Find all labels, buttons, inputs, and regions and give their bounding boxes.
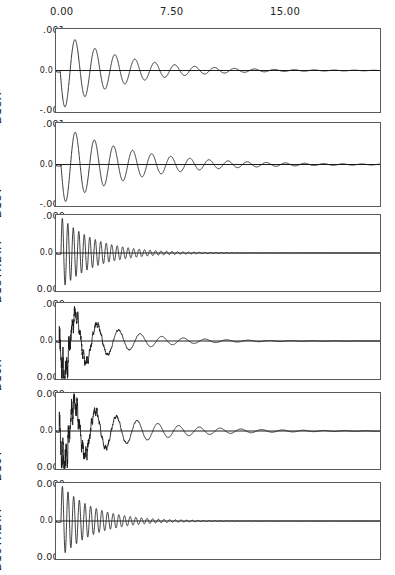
waveform-plot [56,215,380,291]
y-tick-label-mid: 0.0 [31,426,53,435]
subplot-panel: 0.000 0.0 0.000 D10THETA [0,482,395,560]
subplot-panel: .001 0.0 -.001 D18X [0,28,395,113]
plot-frame [55,214,381,292]
waveform-plot [56,123,380,206]
y-axis-title: D10Y [0,467,4,481]
y-tick-label-mid: 0.0 [31,160,53,169]
x-tick-label: 7.50 [160,6,183,17]
y-tick-label-mid: 0.0 [31,248,53,257]
y-tick-label-mid: 0.0 [31,66,53,75]
signal-trace [56,40,380,107]
figure-canvas: 0.00 7.50 15.00 .001 0.0 -.001 D18X .001… [0,0,395,575]
subplot-panel: .000 0.0 0.000 D10X [0,302,395,380]
x-tick-label: 15.00 [270,6,300,17]
plot-frame [55,392,381,470]
y-axis-title: D10X [0,377,4,391]
y-axis-title: D18THETA [0,289,4,303]
signal-trace [56,132,380,201]
plot-frame [55,302,381,380]
plot-frame [55,482,381,560]
subplot-panel: 0.000 0.0 0.000 D10Y [0,392,395,470]
subplot-panel: .001 0.0 -.001 D18Y [0,122,395,207]
waveform-plot [56,483,380,559]
plot-frame [55,28,381,113]
subplot-panel: .000 0.0 0.000 D18THETA [0,214,395,292]
waveform-plot [56,29,380,112]
y-tick-label-mid: 0.0 [31,336,53,345]
y-tick-label-mid: 0.0 [31,516,53,525]
waveform-plot [56,393,380,469]
signal-trace [56,486,380,552]
signal-trace [56,218,380,285]
signal-trace [56,306,380,378]
plot-frame [55,122,381,207]
x-axis-tick-labels: 0.00 7.50 15.00 [0,6,395,22]
y-axis-title: D10THETA [0,557,4,571]
x-tick-label: 0.00 [50,6,73,17]
waveform-plot [56,303,380,379]
